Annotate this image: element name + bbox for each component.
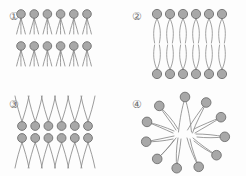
amphiphile-molecule	[15, 96, 29, 130]
monolayer-row-top	[17, 10, 92, 34]
head-group	[155, 101, 165, 111]
amphiphile-molecule	[152, 45, 161, 79]
head-group	[217, 69, 226, 78]
amphiphile-molecule	[41, 96, 55, 130]
head-group	[44, 134, 53, 143]
amphiphile-molecule	[172, 138, 182, 173]
amphiphile-molecule	[28, 134, 42, 168]
amphiphile-molecule	[41, 134, 55, 168]
amphiphile-molecule	[55, 134, 69, 168]
head-group	[17, 10, 26, 19]
panel-2-diagram	[123, 0, 246, 88]
head-group	[172, 163, 182, 173]
amphiphile-arrangements-figure: ①	[0, 0, 246, 176]
head-group	[194, 162, 204, 172]
head-group	[56, 10, 65, 19]
head-group	[83, 42, 92, 51]
amphiphile-molecule	[28, 96, 42, 130]
amphiphile-molecule	[196, 132, 230, 142]
head-group	[70, 134, 79, 143]
amphiphile-molecule	[155, 101, 179, 130]
amphiphile-molecule	[217, 45, 226, 79]
amphiphile-molecule	[194, 112, 226, 133]
micelle	[141, 92, 229, 173]
head-group	[43, 10, 52, 19]
head-group	[70, 122, 79, 131]
head-group	[18, 134, 27, 143]
amphiphile-molecule	[68, 134, 82, 168]
amphiphile-molecule	[187, 138, 204, 172]
amphiphile-molecule	[193, 138, 221, 160]
head-group	[178, 69, 187, 78]
head-group	[152, 9, 161, 18]
head-group	[141, 137, 151, 147]
head-group	[57, 134, 66, 143]
head-group	[83, 10, 92, 19]
head-group	[43, 42, 52, 51]
amphiphile-molecule	[141, 136, 174, 147]
amphiphile-molecule	[30, 42, 39, 66]
head-group	[165, 69, 174, 78]
head-group	[180, 92, 190, 102]
amphiphile-molecule	[217, 9, 226, 43]
head-group	[191, 69, 200, 78]
head-group	[31, 134, 40, 143]
head-group	[204, 9, 213, 18]
panel-4-micelle: ④	[123, 88, 246, 176]
amphiphile-molecule	[81, 96, 95, 130]
head-group	[31, 122, 40, 131]
amphiphile-molecule	[178, 9, 187, 43]
panel-1-diagram	[0, 0, 123, 88]
inverted-row-upper	[15, 96, 95, 130]
amphiphile-molecule	[69, 10, 78, 34]
head-group	[84, 134, 93, 143]
head-group	[191, 9, 200, 18]
amphiphile-molecule	[165, 45, 174, 79]
amphiphile-molecule	[83, 42, 92, 66]
amphiphile-molecule	[68, 96, 82, 130]
panel-4-diagram	[123, 88, 246, 176]
panel-2-bilayer: ②	[123, 0, 246, 88]
head-group	[18, 122, 27, 131]
monolayer-row-bottom	[17, 42, 92, 66]
head-group	[142, 117, 152, 127]
amphiphile-molecule	[17, 10, 26, 34]
head-group	[165, 9, 174, 18]
head-group	[152, 154, 162, 164]
head-group	[217, 9, 226, 18]
head-group	[70, 42, 79, 51]
head-group	[70, 10, 79, 19]
amphiphile-molecule	[56, 42, 65, 66]
amphiphile-molecule	[69, 42, 78, 66]
amphiphile-molecule	[191, 45, 200, 79]
head-group	[30, 10, 39, 19]
bilayer-row-top	[152, 9, 226, 43]
amphiphile-molecule	[55, 96, 69, 130]
amphiphile-molecule	[152, 9, 161, 43]
head-group	[17, 42, 26, 51]
head-group	[84, 122, 93, 131]
amphiphile-molecule	[43, 42, 52, 66]
panel-3-inverted-bilayer: ③	[0, 88, 123, 176]
inverted-row-lower	[15, 134, 95, 168]
bilayer-row-bottom	[152, 45, 226, 79]
amphiphile-molecule	[43, 10, 52, 34]
head-group	[178, 9, 187, 18]
amphiphile-molecule	[204, 9, 213, 43]
amphiphile-molecule	[56, 10, 65, 34]
amphiphile-molecule	[17, 42, 26, 66]
head-group	[201, 98, 211, 108]
amphiphile-molecule	[191, 9, 200, 43]
head-group	[220, 132, 230, 142]
head-group	[56, 42, 65, 51]
panel-3-diagram	[0, 88, 123, 176]
amphiphile-molecule	[15, 134, 29, 168]
amphiphile-molecule	[142, 117, 174, 133]
head-group	[152, 69, 161, 78]
amphiphile-molecule	[83, 10, 92, 34]
amphiphile-molecule	[178, 45, 187, 79]
amphiphile-molecule	[81, 134, 95, 168]
head-group	[212, 150, 222, 160]
amphiphile-molecule	[204, 45, 213, 79]
head-group	[216, 112, 226, 122]
